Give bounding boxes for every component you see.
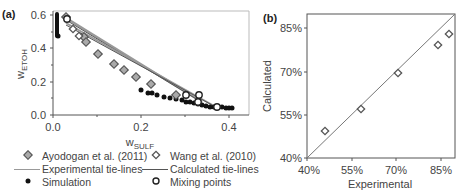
panel-a-plot: 0.0 0.2 0.4 0.6 0.0 0.2 0.4 wSULF wETOH: [14, 9, 249, 151]
dark-line-icon: [142, 169, 168, 170]
b-x-tick-1: 55%: [341, 164, 363, 176]
y-tick-0: 0.0: [31, 109, 46, 121]
legend-exp-tie: Experimental tie-lines: [14, 163, 142, 175]
x-axis-label-b: Experimental: [348, 178, 412, 190]
y-axis-label-a: wETOH: [14, 49, 29, 80]
panel-b-plot: 40% 55% 70% 85% 40% 55% 70% 85% Experime…: [261, 14, 455, 190]
filled-circle-icon: [20, 176, 36, 188]
b-x-tick-0: 40%: [298, 164, 320, 176]
legend-wang: Wang et al. (2010): [148, 150, 256, 162]
y-axis-label-b: Calculated: [261, 60, 273, 112]
y-tick-2: 0.4: [31, 42, 46, 54]
legend-mixing: Mixing points: [148, 176, 231, 188]
open-diamond-icon: [148, 150, 164, 162]
b-x-tick-3: 85%: [430, 164, 452, 176]
b-y-tick-1: 55%: [280, 109, 302, 121]
legend-mixing-label: Mixing points: [170, 176, 231, 188]
gray-diamond-icon: [20, 150, 36, 162]
legend-calc-tie: Calculated tie-lines: [142, 163, 259, 175]
x-axis-label-a: wSULF: [125, 136, 155, 151]
b-x-tick-2: 70%: [385, 164, 407, 176]
x-tick-0: 0.0: [45, 121, 60, 133]
x-tick-2: 0.4: [221, 121, 236, 133]
panel-b-points: [321, 30, 452, 134]
b-y-tick-0: 40%: [280, 152, 302, 164]
legend-simulation-label: Simulation: [42, 176, 91, 188]
legend-wang-label: Wang et al. (2010): [170, 150, 256, 162]
x-tick-1: 0.2: [133, 121, 148, 133]
legend-exp-tie-label: Experimental tie-lines: [42, 163, 142, 175]
b-y-tick-2: 70%: [280, 66, 302, 78]
tie-lines: [66, 18, 216, 107]
gray-line-icon: [14, 169, 40, 170]
open-circle-icon: [148, 176, 164, 188]
legend-calc-tie-label: Calculated tie-lines: [170, 163, 259, 175]
y-tick-1: 0.2: [31, 76, 46, 88]
legend-ayodogan: Ayodogan et al. (2011): [20, 150, 147, 162]
legend-simulation: Simulation: [20, 176, 91, 188]
b-y-tick-3: 85%: [280, 22, 302, 34]
y-tick-3: 0.6: [31, 9, 46, 21]
legend-ayodogan-label: Ayodogan et al. (2011): [42, 150, 147, 162]
